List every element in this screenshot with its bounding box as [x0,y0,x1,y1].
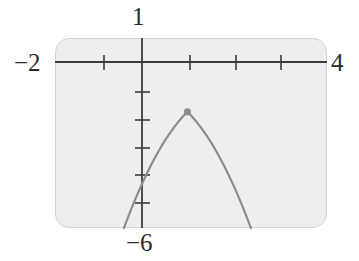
graphing-calculator-figure: 1 −2 4 −6 [0,0,359,261]
window-label-ymin: −6 [126,230,153,255]
window-label-xmin: −2 [14,50,41,75]
parabola-curve [124,112,251,228]
window-label-ymax: 1 [132,4,145,29]
vertex-point-marker [184,108,191,115]
plot-canvas [0,0,359,261]
window-label-xmax: 4 [331,50,344,75]
